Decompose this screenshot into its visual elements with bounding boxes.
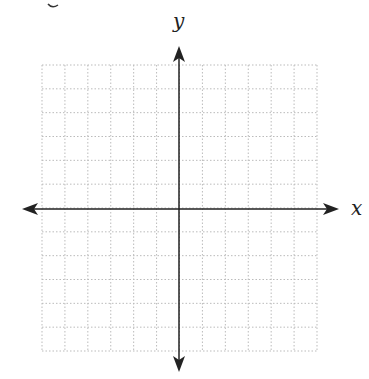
cut-off-fragment [48, 4, 58, 7]
y-axis-label: y [172, 9, 185, 33]
x-axis-label: x [351, 196, 362, 220]
x-axis [22, 203, 339, 215]
coordinate-plane: x y [0, 0, 369, 379]
